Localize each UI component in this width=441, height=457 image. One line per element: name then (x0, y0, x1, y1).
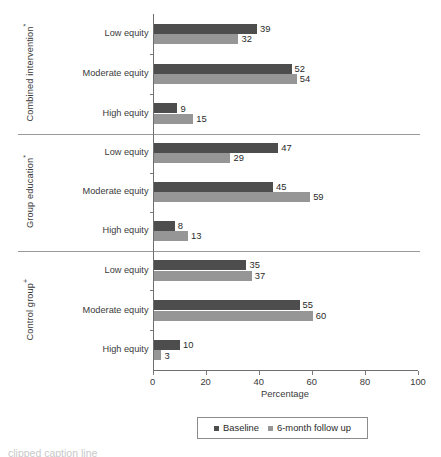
bar-followup (154, 114, 194, 124)
bar-value-label: 13 (191, 231, 201, 240)
category-axis-tick (150, 173, 153, 174)
clipped-caption: clipped caption line (8, 448, 438, 457)
bar-value-label: 9 (180, 104, 185, 113)
bar-value-label: 45 (276, 182, 286, 191)
bar-value-label: 32 (241, 34, 251, 43)
category-axis-tick (150, 212, 153, 213)
bar-value-label: 10 (183, 340, 193, 349)
bar-baseline (154, 300, 300, 310)
x-axis-title: Percentage (152, 389, 418, 398)
panel-label-footnote-marker: * (22, 154, 29, 157)
bar-followup (154, 34, 239, 44)
bar-baseline (154, 143, 279, 153)
value-axis-tick-label: 40 (243, 377, 275, 386)
category-label-high-equity: High equity (58, 109, 149, 118)
value-axis-tick (312, 371, 313, 375)
panel-label-footnote-marker: * (22, 24, 29, 27)
bar-value-label: 59 (313, 192, 323, 201)
bar-followup (154, 231, 189, 241)
panel-label-footnote-marker: + (22, 278, 29, 282)
category-label-low-equity: Low equity (58, 148, 149, 157)
bar-value-label: 54 (300, 74, 310, 83)
bar-followup (154, 350, 162, 360)
bar-value-label: 52 (295, 64, 305, 73)
bar-value-label: 29 (233, 153, 243, 162)
panel-label-text: Control group (25, 283, 35, 341)
value-axis-tick (153, 371, 154, 375)
legend-label-followup: 6-month follow up (277, 423, 351, 432)
panel-label-group-education: Group education* (22, 138, 35, 245)
value-axis-tick-label: 60 (296, 377, 328, 386)
bar-value-label: 39 (260, 24, 270, 33)
bar-baseline (154, 24, 258, 34)
bar-baseline (154, 103, 178, 113)
value-axis-line (153, 370, 419, 371)
category-label-moderate-equity: Moderate equity (58, 306, 149, 315)
value-axis-tick (365, 371, 366, 375)
bar-followup (154, 311, 313, 321)
value-axis-tick (259, 371, 260, 375)
bar-value-label: 47 (281, 143, 291, 152)
bar-baseline (154, 340, 181, 350)
bar-value-label: 37 (255, 271, 265, 280)
value-axis-tick (206, 371, 207, 375)
bar-baseline (154, 64, 292, 74)
legend-label-baseline: Baseline (223, 423, 259, 432)
bar-value-label: 55 (303, 300, 313, 309)
bar-baseline (154, 182, 273, 192)
legend-swatch-baseline-icon (214, 426, 219, 431)
bar-value-label: 60 (316, 311, 326, 320)
category-label-moderate-equity: Moderate equity (58, 187, 149, 196)
value-axis-tick-label: 20 (190, 377, 222, 386)
category-axis-tick (150, 290, 153, 291)
bar-followup (154, 192, 311, 202)
category-label-high-equity: High equity (58, 345, 149, 354)
bar-value-label: 8 (178, 221, 183, 230)
bar-followup (154, 74, 297, 84)
value-axis-tick (418, 371, 419, 375)
bar-value-label: 35 (249, 260, 259, 269)
legend-swatch-followup-icon (268, 426, 273, 431)
bar-chart-figure: Combined intervention*Group education*Co… (0, 0, 441, 457)
panel-label-text: Group education (25, 157, 35, 227)
value-axis-tick-label: 0 (137, 377, 169, 386)
panel-label-combined-intervention: Combined intervention* (22, 18, 35, 128)
panel-separator-2 (18, 251, 420, 252)
value-axis-tick-label: 100 (402, 377, 434, 386)
bar-value-label: 15 (196, 114, 206, 123)
category-label-moderate-equity: Moderate equity (58, 69, 149, 78)
category-label-low-equity: Low equity (58, 266, 149, 275)
panel-separator-1 (18, 134, 420, 135)
panel-label-control-group: Control group+ (22, 255, 35, 365)
bar-baseline (154, 221, 175, 231)
panel-label-text: Combined intervention (25, 27, 35, 122)
value-axis-tick-label: 80 (349, 377, 381, 386)
bar-followup (154, 271, 252, 281)
bar-followup (154, 153, 231, 163)
legend-entry-baseline: Baseline (214, 423, 259, 432)
category-label-low-equity: Low equity (58, 29, 149, 38)
category-axis-tick (150, 54, 153, 55)
bar-baseline (154, 260, 247, 270)
category-axis-tick (150, 330, 153, 331)
category-axis-tick (150, 94, 153, 95)
bar-value-label: 3 (164, 351, 169, 360)
chart-legend: Baseline 6-month follow up (197, 417, 368, 439)
category-label-high-equity: High equity (58, 226, 149, 235)
legend-entry-followup: 6-month follow up (268, 423, 351, 432)
